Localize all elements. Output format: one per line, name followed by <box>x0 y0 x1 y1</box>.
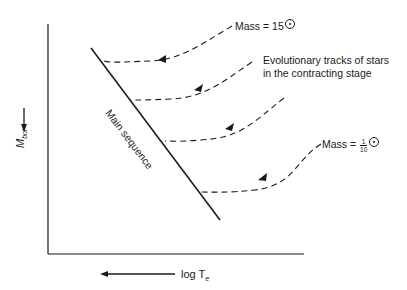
track-3 <box>165 98 284 141</box>
y-axis-symbol: M <box>14 139 26 148</box>
fraction-denominator: 10 <box>360 146 367 153</box>
track-0.1-msun <box>199 144 321 192</box>
track-arrows <box>158 55 267 181</box>
y-axis-subscript: bol <box>21 129 28 138</box>
sun-symbol-icon <box>285 19 295 29</box>
top-mass-text: Mass = 15 <box>235 20 284 32</box>
x-axis-symbol: log T <box>181 268 205 280</box>
fraction-numerator: 1 <box>360 138 367 146</box>
bottom-mass-label: Mass = 110 <box>322 137 379 153</box>
arrow-icon <box>225 123 234 131</box>
mass-fraction: 110 <box>360 138 367 153</box>
sun-symbol-icon <box>369 137 379 147</box>
top-mass-label: Mass = 15 <box>235 19 295 32</box>
track-15-msun <box>104 26 232 62</box>
arrow-icon <box>258 173 267 181</box>
main-sequence-line <box>91 48 220 220</box>
bottom-mass-text: Mass = <box>322 138 359 150</box>
left-arrow-icon <box>100 271 108 277</box>
track-2 <box>130 62 252 100</box>
arrow-icon <box>158 55 166 63</box>
tracks-annotation: Evolutionary tracks of stars in the cont… <box>263 54 393 79</box>
x-axis-subscript: e <box>205 275 209 282</box>
x-axis-label: log Te <box>181 268 209 282</box>
arrow-icon <box>194 84 203 92</box>
y-axis-label: Mbol <box>14 129 28 148</box>
